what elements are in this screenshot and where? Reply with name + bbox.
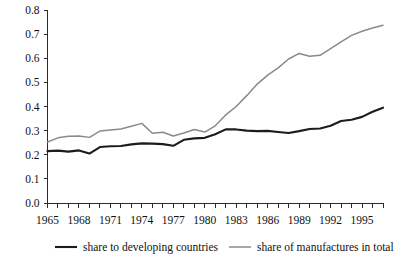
chart-canvas: 0.00.10.20.30.40.50.60.70.8 196519681971… [0,0,395,261]
x-tick-label: 1995 [351,214,374,226]
x-tick-label: 1980 [193,214,216,226]
x-tick-label: 1971 [99,214,122,226]
y-tick-label: 0.3 [25,125,40,137]
y-tick-label: 0.2 [25,149,40,161]
x-tick-label: 1986 [256,214,279,226]
y-tick-label: 0.8 [25,4,40,16]
y-tick-label: 0.5 [25,76,40,88]
legend-label: share to developing countries [83,241,219,254]
legend-label: share of manufactures in total [257,241,394,253]
x-tick-label: 1974 [130,214,153,226]
x-tick-label: 1989 [288,214,311,226]
y-tick-label: 0.1 [25,173,40,185]
x-tick-label: 1983 [225,214,248,226]
x-tick-label: 1968 [67,214,90,226]
y-tick-label: 0.7 [25,28,40,40]
chart-legend: share to developing countriesshare of ma… [55,241,394,254]
x-tick-label: 1977 [162,214,185,226]
x-tick-label: 1965 [36,214,59,226]
y-tick-label: 0.6 [25,52,40,64]
y-tick-label: 0.0 [25,197,40,209]
series-line [48,108,384,154]
series-lines [48,25,384,153]
y-tick-label: 0.4 [25,101,40,113]
y-axis: 0.00.10.20.30.40.50.60.70.8 [25,4,47,209]
line-chart: 0.00.10.20.30.40.50.60.70.8 196519681971… [0,0,395,261]
x-axis: 1965196819711974197719801983198619891992… [36,203,383,226]
x-tick-label: 1992 [319,214,342,226]
